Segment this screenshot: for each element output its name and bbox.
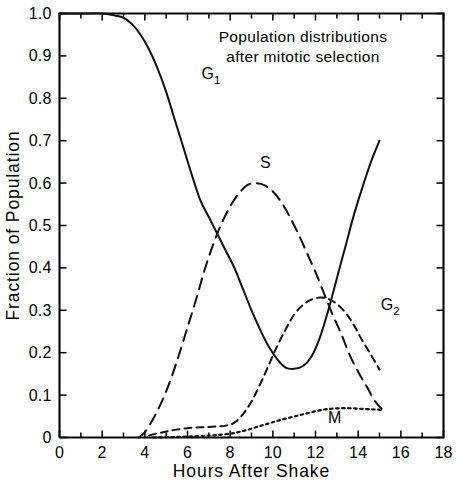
plot-frame bbox=[60, 14, 444, 438]
tick-labels-group: 02468101214161800.10.20.30.40.50.60.70.8… bbox=[29, 5, 453, 461]
series-curve-g1 bbox=[60, 13, 380, 369]
x-tick-label: 4 bbox=[140, 444, 149, 461]
x-tick-label: 8 bbox=[226, 444, 235, 461]
series-label-g2: G2 bbox=[381, 296, 400, 317]
y-axis-title: Fraction of Population bbox=[3, 130, 23, 320]
y-tick-label: 0.2 bbox=[29, 344, 52, 361]
y-tick-label: 1.0 bbox=[29, 5, 52, 22]
y-tick-label: 0.6 bbox=[29, 175, 52, 192]
y-tick-label: 0 bbox=[42, 429, 51, 446]
y-tick-label: 0.7 bbox=[29, 132, 52, 149]
chart-title-line-1: Population distributions bbox=[219, 28, 388, 45]
series-labels-group: G1SG2M bbox=[202, 65, 400, 425]
y-tick-label: 0.8 bbox=[29, 90, 52, 107]
chart-plot: 02468101214161800.10.20.30.40.50.60.70.8… bbox=[0, 0, 456, 488]
y-tick-label: 0.9 bbox=[29, 47, 52, 64]
axes-group bbox=[60, 14, 444, 438]
x-tick-label: 16 bbox=[392, 444, 410, 461]
series-label-g1: G1 bbox=[202, 65, 221, 86]
x-tick-label: 2 bbox=[98, 444, 107, 461]
y-tick-label: 0.1 bbox=[29, 387, 52, 404]
x-tick-label: 18 bbox=[434, 444, 452, 461]
series-curve-s bbox=[138, 183, 381, 437]
series-label-m: M bbox=[328, 409, 341, 426]
curves-group bbox=[60, 13, 382, 437]
series-label-s: S bbox=[260, 154, 271, 171]
x-axis-title: Hours After Shake bbox=[173, 461, 330, 481]
x-tick-label: 6 bbox=[183, 444, 192, 461]
y-tick-label: 0.4 bbox=[29, 259, 52, 276]
x-tick-label: 10 bbox=[264, 444, 282, 461]
x-tick-label: 14 bbox=[349, 444, 367, 461]
y-tick-label: 0.3 bbox=[29, 302, 52, 319]
ticks-group bbox=[60, 14, 444, 438]
chart-title-line-2: after mitotic selection bbox=[226, 48, 380, 65]
figure-container: 02468101214161800.10.20.30.40.50.60.70.8… bbox=[0, 0, 456, 488]
x-tick-label: 12 bbox=[306, 444, 324, 461]
y-tick-label: 0.5 bbox=[29, 217, 52, 234]
x-tick-label: 0 bbox=[55, 444, 64, 461]
series-curve-g2 bbox=[149, 298, 379, 436]
